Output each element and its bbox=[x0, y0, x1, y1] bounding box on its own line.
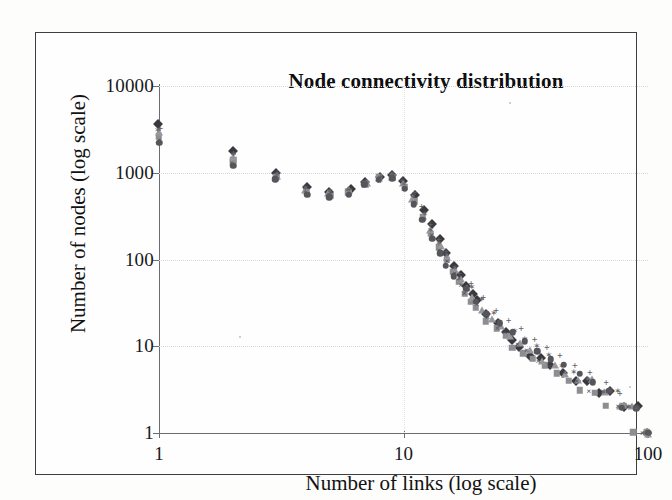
data-point-star bbox=[435, 240, 442, 247]
data-point-square bbox=[411, 198, 418, 205]
data-point-square bbox=[520, 350, 527, 357]
y-tick-label: 10 bbox=[135, 335, 154, 357]
data-point-diamond bbox=[493, 318, 503, 328]
chart-frame: Node connectivity distribution Number of… bbox=[35, 32, 637, 475]
data-point-circle bbox=[561, 361, 568, 368]
data-point-star bbox=[302, 184, 309, 191]
data-point-cross bbox=[362, 182, 369, 189]
data-point-triangle bbox=[155, 128, 163, 135]
data-point-cross bbox=[639, 429, 646, 436]
data-point-circle bbox=[522, 338, 529, 345]
x-axis-title: Number of links (log scale) bbox=[186, 471, 656, 496]
data-point-triangle bbox=[468, 293, 476, 300]
data-point-diamond bbox=[302, 182, 312, 192]
data-point-triangle bbox=[488, 316, 496, 323]
data-point-cross bbox=[494, 324, 501, 331]
data-point-triangle bbox=[419, 212, 427, 219]
y-tick-label: 1000 bbox=[115, 161, 154, 183]
data-point-triangle bbox=[301, 187, 309, 194]
data-point-circle bbox=[463, 286, 470, 293]
data-point-diamond bbox=[410, 190, 420, 200]
data-point-square bbox=[273, 174, 280, 181]
data-point-diamond bbox=[461, 281, 471, 291]
data-point-circle bbox=[450, 273, 457, 280]
data-point-plus bbox=[230, 149, 237, 156]
data-point-square bbox=[603, 403, 610, 410]
data-point-plus bbox=[326, 189, 333, 196]
data-point-plus bbox=[616, 389, 623, 396]
data-point-diamond bbox=[633, 401, 643, 411]
data-point-diamond bbox=[360, 177, 370, 187]
data-point-circle bbox=[483, 310, 490, 317]
data-point-plus bbox=[411, 188, 418, 195]
data-point-diamond bbox=[427, 219, 437, 229]
data-point-star bbox=[154, 126, 161, 133]
data-point-square bbox=[230, 157, 237, 164]
data-point-star bbox=[490, 310, 497, 317]
data-point-cross bbox=[328, 192, 335, 199]
data-point-square bbox=[328, 192, 335, 199]
data-point-triangle bbox=[478, 306, 486, 313]
data-point-triangle bbox=[538, 357, 546, 364]
data-point-cross bbox=[428, 231, 435, 238]
data-point-circle bbox=[437, 250, 444, 257]
data-point-square bbox=[576, 387, 583, 394]
data-point-star bbox=[344, 186, 351, 193]
data-point-triangle bbox=[426, 227, 434, 234]
data-point-circle bbox=[156, 139, 163, 146]
data-point-circle bbox=[472, 299, 479, 306]
data-point-square bbox=[375, 174, 382, 181]
data-point-cross bbox=[410, 198, 417, 205]
scan-speck bbox=[239, 336, 241, 338]
data-point-plus bbox=[468, 279, 475, 286]
data-point-plus bbox=[531, 336, 538, 343]
data-point-triangle bbox=[229, 153, 237, 160]
data-point-star bbox=[570, 368, 577, 375]
data-point-circle bbox=[534, 348, 541, 355]
data-point-plus bbox=[586, 369, 593, 376]
y-axis-tick-labels: 110100100010000 bbox=[36, 86, 154, 433]
data-point-diamond bbox=[435, 234, 445, 244]
data-point-square bbox=[530, 355, 537, 362]
data-point-circle bbox=[548, 356, 555, 363]
data-point-square bbox=[156, 133, 163, 140]
x-tick-label: 100 bbox=[634, 443, 663, 465]
data-point-cross bbox=[501, 329, 508, 336]
data-point-circle bbox=[606, 388, 613, 395]
data-point-plus bbox=[556, 351, 563, 358]
data-point-diamond bbox=[594, 388, 604, 398]
data-point-plus bbox=[632, 405, 639, 412]
data-point-diamond bbox=[525, 351, 535, 361]
data-point-diamond bbox=[441, 248, 451, 258]
data-point-star bbox=[468, 284, 475, 291]
data-point-triangle bbox=[516, 339, 524, 346]
data-point-circle bbox=[304, 192, 311, 199]
data-point-cross bbox=[420, 216, 427, 223]
data-point-triangle bbox=[463, 285, 471, 292]
data-point-circle bbox=[633, 405, 640, 412]
data-point-star bbox=[584, 376, 591, 383]
data-point-diamond bbox=[449, 261, 459, 271]
data-point-square bbox=[565, 377, 572, 384]
data-point-plus bbox=[346, 185, 353, 192]
data-point-square bbox=[362, 181, 369, 188]
data-point-star bbox=[600, 388, 607, 395]
data-point-diamond bbox=[153, 119, 163, 129]
data-point-plus bbox=[427, 220, 434, 227]
data-point-cross bbox=[614, 403, 621, 410]
data-point-circle bbox=[361, 181, 368, 188]
data-point-circle bbox=[346, 191, 353, 198]
data-point-star bbox=[427, 227, 434, 234]
data-point-plus bbox=[493, 306, 500, 313]
data-point-circle bbox=[411, 201, 418, 208]
data-point-diamond bbox=[375, 173, 385, 183]
data-point-triangle bbox=[628, 402, 636, 409]
data-point-star bbox=[421, 210, 428, 217]
data-point-triangle bbox=[375, 175, 383, 182]
data-point-cross bbox=[546, 362, 553, 369]
data-point-diamond bbox=[346, 184, 356, 194]
data-point-circle bbox=[272, 176, 279, 183]
data-point-plus bbox=[157, 124, 164, 131]
data-point-square bbox=[620, 402, 627, 409]
data-point-plus bbox=[603, 379, 610, 386]
